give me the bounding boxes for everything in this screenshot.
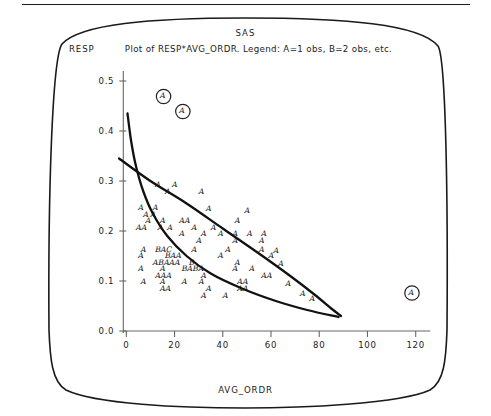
y-tick-label: 0.3: [84, 176, 114, 186]
data-point-marker: AA: [179, 217, 190, 225]
data-point-marker: A: [273, 247, 278, 255]
data-point-marker: A: [211, 224, 216, 232]
x-tick-label: 100: [352, 340, 382, 350]
data-point-marker: A: [172, 181, 177, 189]
data-point-marker: A: [155, 181, 160, 189]
x-tick-label: 20: [160, 340, 190, 350]
data-point-marker: A: [179, 230, 184, 238]
data-point-marker: A: [191, 246, 196, 254]
y-tick-label: 0.5: [84, 76, 114, 86]
data-point-marker: AA: [237, 285, 248, 293]
data-point-marker: A: [138, 252, 143, 260]
data-point-marker: ABAAA: [153, 259, 181, 267]
data-point-marker: A: [232, 237, 237, 245]
y-tick-label: 0.0: [84, 326, 114, 336]
plot-axes: [119, 71, 430, 337]
data-point-marker: A: [223, 292, 228, 300]
y-tick-label: 0.2: [84, 226, 114, 236]
data-point-marker: A: [235, 217, 240, 225]
data-point-marker: A: [218, 230, 223, 238]
data-point-marker: A: [138, 265, 143, 273]
data-point-marker: A: [310, 295, 315, 303]
sas-plot-page: SAS Plot of RESP*AVG_ORDR. Legend: A=1 o…: [0, 0, 491, 416]
data-point-marker: A: [278, 260, 283, 268]
outlier-marker: A: [179, 107, 184, 115]
data-point-marker: A: [191, 224, 196, 232]
x-tick-label: 80: [304, 340, 334, 350]
data-point-marker: A: [285, 280, 290, 288]
data-point-marker: A: [206, 205, 211, 213]
data-point-marker: A: [150, 211, 155, 219]
x-tick-label: 120: [401, 340, 431, 350]
data-point-marker: A: [141, 278, 146, 286]
x-tick-label: 40: [208, 340, 238, 350]
data-point-marker: A: [165, 188, 170, 196]
outlier-marker: A: [160, 92, 165, 100]
data-point-marker: A: [259, 246, 264, 254]
data-point-marker: AA: [136, 224, 147, 232]
data-point-marker: A: [249, 265, 254, 273]
data-point-marker: A: [196, 237, 201, 245]
x-tick-label: 60: [256, 340, 286, 350]
outlier-marker: A: [408, 289, 413, 297]
data-point-marker: A: [300, 290, 305, 298]
data-point-marker: A: [225, 246, 230, 254]
data-point-marker: A: [259, 237, 264, 245]
data-point-marker: AA: [261, 272, 272, 280]
data-point-marker: A: [199, 278, 204, 286]
data-point-marker: A: [244, 207, 249, 215]
y-tick-label: 0.4: [84, 126, 114, 136]
data-point-marker: A: [167, 224, 172, 232]
data-point-marker: A: [247, 230, 252, 238]
data-point-marker: A: [199, 188, 204, 196]
data-point-marker: A: [201, 292, 206, 300]
upper-envelope-line: [119, 159, 341, 317]
y-tick-label: 0.1: [84, 276, 114, 286]
data-point-marker: A: [232, 265, 237, 273]
data-point-marker: A: [218, 252, 223, 260]
x-tick-label: 0: [111, 340, 141, 350]
data-point-marker: A: [158, 224, 163, 232]
data-point-marker: AA: [160, 285, 171, 293]
data-point-marker: A: [182, 278, 187, 286]
